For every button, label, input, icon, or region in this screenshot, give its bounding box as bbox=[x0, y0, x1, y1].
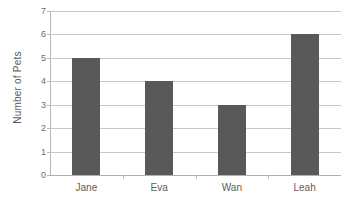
bar bbox=[145, 81, 173, 175]
y-tick-label: 6 bbox=[28, 30, 46, 39]
y-tick-label: 2 bbox=[28, 124, 46, 133]
bar bbox=[218, 105, 246, 175]
x-axis-category-label: Wan bbox=[222, 182, 242, 193]
y-tick-label: 4 bbox=[28, 77, 46, 86]
y-tick-label: 0 bbox=[28, 171, 46, 180]
bar-chart: Number of Pets 01234567 JaneEvaWanLeah bbox=[0, 0, 358, 205]
x-axis-category-label: Jane bbox=[76, 182, 98, 193]
y-axis-title-label: Number of Pets bbox=[12, 51, 23, 123]
bar bbox=[72, 58, 100, 175]
bars-layer bbox=[50, 11, 341, 175]
y-axis-title: Number of Pets bbox=[8, 0, 26, 175]
bar bbox=[291, 34, 319, 175]
y-tick-label: 3 bbox=[28, 100, 46, 109]
plot-area bbox=[50, 11, 341, 175]
y-tick-label: 1 bbox=[28, 147, 46, 156]
x-axis-categories: JaneEvaWanLeah bbox=[50, 175, 341, 205]
y-tick-label: 7 bbox=[28, 7, 46, 16]
x-axis-category-label: Eva bbox=[151, 182, 168, 193]
y-tick-label: 5 bbox=[28, 53, 46, 62]
x-axis-category-label: Leah bbox=[294, 182, 316, 193]
category-divider-tick bbox=[268, 175, 269, 179]
category-divider-tick bbox=[196, 175, 197, 179]
y-axis-tick-labels: 01234567 bbox=[28, 11, 46, 175]
category-divider-tick bbox=[123, 175, 124, 179]
